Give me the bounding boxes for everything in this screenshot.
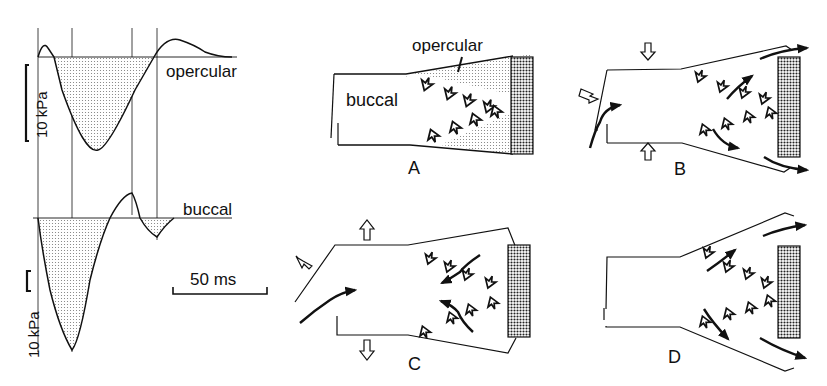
panel-a: opercular buccal A: [331, 36, 533, 178]
time-scale-label: 50 ms: [190, 270, 236, 289]
expansion-arrows: [296, 220, 374, 360]
panel-d: D: [604, 213, 805, 371]
panel-c: C: [295, 220, 530, 374]
arrow-upleft-icon: [296, 256, 312, 269]
gill-filter: [778, 246, 800, 338]
arrow-right-icon: [579, 89, 598, 103]
upper-scale-label: 10 kPa: [33, 91, 50, 138]
arrow-up-icon: [360, 220, 374, 240]
opercular-trace-label: opercular: [166, 62, 237, 81]
pressure-traces: opercular 10 kPa buccal 10 kPa 50 ms: [25, 28, 267, 358]
lower-pressure-scale: 10 kPa: [25, 271, 42, 358]
gill-filter: [508, 245, 530, 337]
gill-rakers: [693, 68, 778, 138]
gill-filter: [511, 57, 533, 154]
lower-scale-label: 10 kPa: [25, 311, 42, 358]
panel-d-letter: D: [668, 347, 681, 367]
arrow-up-icon: [641, 143, 655, 160]
flow-arrows: [590, 48, 807, 170]
figure-canvas: opercular 10 kPa buccal 10 kPa 50 ms: [0, 0, 827, 386]
opercular-trace: opercular: [38, 39, 237, 150]
gill-rakers: [417, 250, 500, 340]
panel-a-opercular-label: opercular: [412, 36, 483, 55]
panel-a-letter: A: [408, 158, 420, 178]
panel-c-letter: C: [408, 354, 421, 374]
panel-b: B: [579, 43, 807, 179]
arrow-down-icon: [641, 43, 655, 60]
panel-a-buccal-label: buccal: [346, 90, 398, 110]
gill-filter: [778, 57, 800, 157]
time-scale-bar: 50 ms: [173, 270, 267, 294]
panel-b-letter: B: [674, 159, 686, 179]
arrow-down-icon: [360, 340, 374, 360]
buccal-trace-label: buccal: [183, 200, 232, 219]
